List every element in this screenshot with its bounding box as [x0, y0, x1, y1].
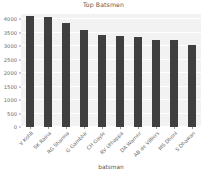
x-tick-mark [120, 127, 121, 129]
x-axis-label: batsman [21, 164, 201, 170]
bar-chart-figure: Top Batsmen 0500100015002000250030003500… [0, 0, 207, 177]
x-tick-mark [138, 127, 139, 129]
x-tick-mark [156, 127, 157, 129]
x-tick-mark [102, 127, 103, 129]
x-tick-mark [48, 127, 49, 129]
x-tick-mark [84, 127, 85, 129]
x-axis: V KohliSK RainaRG SharmaG GambhirCH Gayl… [0, 0, 207, 177]
x-tick-mark [30, 127, 31, 129]
x-tick-mark [66, 127, 67, 129]
x-tick-mark [192, 127, 193, 129]
x-tick-mark [174, 127, 175, 129]
